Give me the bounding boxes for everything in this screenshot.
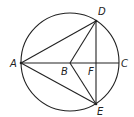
geometry-diagram: A B C D E F [0, 0, 134, 117]
label-a: A [9, 58, 17, 69]
point-d-dot [95, 20, 98, 23]
label-e: E [97, 106, 104, 117]
segment-ad [21, 21, 96, 63]
point-e-dot [95, 103, 98, 106]
label-d: D [98, 6, 106, 17]
label-f: F [88, 66, 94, 77]
label-c: C [121, 58, 128, 69]
segment-ae [21, 63, 96, 104]
point-a-dot [20, 62, 23, 65]
label-b: B [61, 66, 68, 77]
segment-bd [70, 21, 96, 63]
